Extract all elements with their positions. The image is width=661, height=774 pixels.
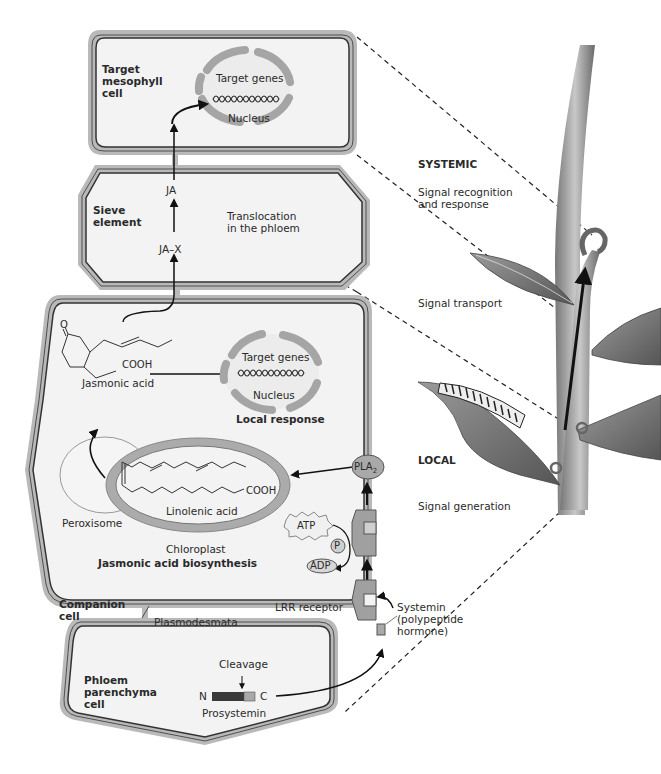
label-line: Systemin: [397, 601, 463, 613]
linolenic-cooh-label: COOH: [246, 485, 276, 497]
systemin-peptide: [377, 624, 385, 635]
label-line: and response: [418, 198, 513, 210]
ketone-o-label: O: [60, 319, 68, 331]
pla2-subscript: 2: [373, 467, 377, 475]
local-target-genes-label: Target genes: [242, 351, 310, 363]
c-terminus-label: C: [260, 690, 267, 702]
label-line: Sieve: [93, 204, 141, 216]
chloroplast-label: Chloroplast: [166, 543, 225, 555]
systemin-label: Systemin (polypeptide hormone): [397, 601, 463, 637]
label-line: in the phloem: [227, 222, 300, 234]
n-terminus-label: N: [199, 690, 207, 702]
signal-transport-label: Signal transport: [418, 297, 502, 309]
label-line: cell: [102, 87, 163, 99]
target-mesophyll-label: Target mesophyll cell: [102, 63, 163, 99]
label-line: Target: [102, 63, 163, 75]
jasmonic-acid-label: Jasmonic acid: [82, 377, 154, 389]
local-label: LOCAL: [418, 454, 456, 466]
biosynthesis-label: Jasmonic acid biosynthesis: [98, 557, 257, 569]
signal-generation-label: Signal generation: [418, 500, 511, 512]
ja-label: JA: [166, 184, 176, 196]
label-line: Phloem: [84, 674, 157, 686]
prosystemin-label: Prosystemin: [202, 707, 266, 719]
plasmodesmata-label: Plasmodesmata: [154, 616, 238, 628]
cleavage-label: Cleavage: [219, 658, 268, 670]
label-line: mesophyll: [102, 75, 163, 87]
dashed-guide-lines: [345, 37, 592, 712]
companion-cell-label: Companion cell: [59, 598, 125, 622]
label-line: (polypeptide: [397, 613, 463, 625]
pla2-text: PLA: [354, 461, 373, 472]
ja-cooh-label: COOH: [122, 359, 152, 371]
ja-x-label: JA–X: [159, 243, 182, 255]
label-line: Companion: [59, 598, 125, 610]
label-line: cell: [59, 610, 125, 622]
sieve-element-label: Sieve element: [93, 204, 141, 228]
lrr-receptor-label: LRR receptor: [275, 601, 343, 613]
peroxisome-label: Peroxisome: [62, 517, 122, 529]
signal-recognition-label: Signal recognition and response: [418, 186, 513, 210]
linolenic-acid-label: Linolenic acid: [166, 505, 238, 517]
adp-label: ADP: [310, 560, 331, 572]
label-line: Signal recognition: [418, 186, 513, 198]
local-response-label: Local response: [236, 413, 325, 425]
label-line: element: [93, 216, 141, 228]
systemic-label: SYSTEMIC: [418, 158, 477, 170]
atp-label: ATP: [297, 520, 315, 532]
translocation-label: Translocation in the phloem: [227, 210, 300, 234]
local-nucleus-label: Nucleus: [253, 389, 295, 401]
plant-illustration: [418, 45, 661, 515]
prosystemin-bar: [212, 692, 244, 701]
phloem-parenchyma-label: Phloem parenchyma cell: [84, 674, 157, 710]
label-line: hormone): [397, 625, 463, 637]
pla2-label: PLA2: [354, 461, 377, 477]
phosphate-label: P: [334, 540, 340, 552]
label-line: parenchyma: [84, 686, 157, 698]
top-target-genes-label: Target genes: [216, 72, 284, 84]
label-line: cell: [84, 698, 157, 710]
top-nucleus-label: Nucleus: [228, 112, 270, 124]
label-line: Translocation: [227, 210, 300, 222]
